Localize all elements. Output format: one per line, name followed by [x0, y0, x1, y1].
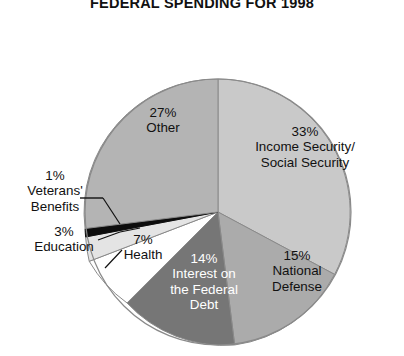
pie-chart: FEDERAL SPENDING FOR 1998 33% Income Sec…	[0, 0, 404, 356]
slice-label-national-defense: 15% National Defense	[243, 248, 351, 294]
slice-label-income-security: 33% Income Security/ Social Security	[235, 124, 375, 170]
slice-name-education: Education	[10, 239, 118, 254]
slice-name-veterans-line1: Veterans'	[2, 183, 108, 198]
slice-label-education: 3% Education	[10, 224, 118, 255]
slice-name-national-defense-line2: Defense	[243, 279, 351, 294]
slice-percent-education: 3%	[10, 224, 118, 239]
slice-name-other: Other	[111, 120, 215, 135]
slice-name-interest-line3: Debt	[152, 297, 256, 312]
slice-percent-national-defense: 15%	[243, 248, 351, 263]
slice-label-veterans-benefits: 1% Veterans' Benefits	[2, 168, 108, 214]
slice-percent-veterans-benefits: 1%	[2, 168, 108, 183]
slice-name-interest-line2: the Federal	[152, 282, 256, 297]
slice-label-other: 27% Other	[111, 105, 215, 136]
slice-name-income-security-line2: Social Security	[235, 155, 375, 170]
slice-name-interest-line1: Interest on	[152, 266, 256, 281]
slice-name-income-security-line1: Income Security/	[235, 139, 375, 154]
slice-name-veterans-line2: Benefits	[2, 199, 108, 214]
slice-percent-income-security: 33%	[235, 124, 375, 139]
slice-percent-other: 27%	[111, 105, 215, 120]
slice-name-national-defense-line1: National	[243, 263, 351, 278]
